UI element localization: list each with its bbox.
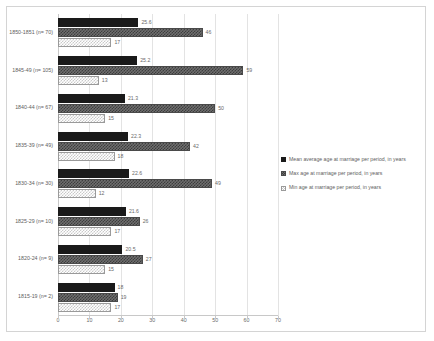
bar-max[interactable] bbox=[58, 142, 190, 151]
bar-mean[interactable] bbox=[58, 245, 122, 254]
bar-value-label: 21.6 bbox=[129, 209, 139, 214]
bar-value-label: 15 bbox=[108, 267, 114, 272]
bar-group: 21.35015 bbox=[58, 94, 278, 123]
x-tick-mark bbox=[152, 316, 153, 319]
x-tick-mark bbox=[215, 316, 216, 319]
gridline bbox=[278, 14, 279, 316]
bar-value-label: 18 bbox=[118, 285, 124, 290]
bar-row[interactable]: 46 bbox=[58, 28, 211, 37]
bar-value-label: 26 bbox=[143, 219, 149, 224]
bar-mean[interactable] bbox=[58, 94, 125, 103]
bar-row[interactable]: 22.3 bbox=[58, 132, 141, 141]
bar-mean[interactable] bbox=[58, 207, 126, 216]
bar-row[interactable]: 25.2 bbox=[58, 56, 150, 65]
bar-min[interactable] bbox=[58, 303, 111, 312]
bar-row[interactable]: 50 bbox=[58, 104, 224, 113]
bar-min[interactable] bbox=[58, 76, 99, 85]
x-axis-tick-labels: 010203040506070 bbox=[58, 318, 278, 328]
bar-value-label: 42 bbox=[193, 144, 199, 149]
bar-max[interactable] bbox=[58, 28, 203, 37]
bar-row[interactable]: 18 bbox=[58, 152, 123, 161]
x-tick-mark bbox=[247, 316, 248, 319]
bar-row[interactable]: 42 bbox=[58, 142, 199, 151]
bar-min[interactable] bbox=[58, 38, 111, 47]
category-label: 1850-1851 (n= 70) bbox=[9, 30, 53, 35]
bar-row[interactable]: 15 bbox=[58, 114, 114, 123]
bar-max[interactable] bbox=[58, 217, 140, 226]
legend-label: Max age at marriage per period, in years bbox=[289, 171, 382, 176]
bar-value-label: 50 bbox=[218, 106, 224, 111]
bar-value-label: 20.5 bbox=[125, 247, 135, 252]
bar-max[interactable] bbox=[58, 255, 143, 264]
x-tick-mark bbox=[278, 316, 279, 319]
bar-min[interactable] bbox=[58, 114, 105, 123]
bar-mean[interactable] bbox=[58, 169, 129, 178]
bar-min[interactable] bbox=[58, 265, 105, 274]
legend-swatch-max bbox=[281, 171, 286, 176]
category-label: 1840-44 (n= 67) bbox=[15, 105, 53, 110]
bar-row[interactable]: 21.3 bbox=[58, 94, 138, 103]
legend-item[interactable]: Mean average age at marriage per period,… bbox=[281, 157, 429, 162]
category-label: 1845-49 (n= 105) bbox=[12, 68, 53, 73]
category-label: 1815-19 (n= 2) bbox=[18, 294, 53, 299]
bar-min[interactable] bbox=[58, 227, 111, 236]
bar-row[interactable]: 21.6 bbox=[58, 207, 139, 216]
bar-min[interactable] bbox=[58, 152, 115, 161]
bar-max[interactable] bbox=[58, 66, 243, 75]
bar-row[interactable]: 26 bbox=[58, 217, 148, 226]
legend-item[interactable]: Max age at marriage per period, in years bbox=[281, 171, 429, 176]
bar-row[interactable]: 19 bbox=[58, 293, 126, 302]
category-label: 1830-34 (n= 30) bbox=[15, 181, 53, 186]
bar-group: 22.34218 bbox=[58, 132, 278, 161]
bar-mean[interactable] bbox=[58, 132, 128, 141]
bar-value-label: 27 bbox=[146, 257, 152, 262]
bar-value-label: 18 bbox=[118, 154, 124, 159]
legend-item[interactable]: Min age at marriage per period, in years bbox=[281, 185, 429, 190]
bar-row[interactable]: 22.6 bbox=[58, 169, 142, 178]
bar-row[interactable]: 15 bbox=[58, 265, 114, 274]
bar-row[interactable]: 18 bbox=[58, 283, 123, 292]
bar-value-label: 49 bbox=[215, 181, 221, 186]
bar-mean[interactable] bbox=[58, 283, 115, 292]
bar-row[interactable]: 17 bbox=[58, 227, 120, 236]
bar-value-label: 46 bbox=[206, 30, 212, 35]
legend-label: Min age at marriage per period, in years bbox=[289, 185, 381, 190]
bar-row[interactable]: 13 bbox=[58, 76, 108, 85]
bar-value-label: 59 bbox=[246, 68, 252, 73]
bar-row[interactable]: 17 bbox=[58, 38, 120, 47]
x-tick-mark bbox=[58, 316, 59, 319]
bar-max[interactable] bbox=[58, 104, 215, 113]
bar-group: 22.64912 bbox=[58, 169, 278, 198]
x-tick-mark bbox=[184, 316, 185, 319]
bar-row[interactable]: 17 bbox=[58, 303, 120, 312]
bar-row[interactable]: 27 bbox=[58, 255, 152, 264]
bar-group: 25.25913 bbox=[58, 56, 278, 85]
bar-row[interactable]: 12 bbox=[58, 189, 104, 198]
bar-value-label: 15 bbox=[108, 116, 114, 121]
legend-swatch-min bbox=[281, 186, 286, 191]
bar-mean[interactable] bbox=[58, 56, 137, 65]
bar-value-label: 17 bbox=[114, 229, 120, 234]
chart-container: 25.6461725.2591321.3501522.3421822.64912… bbox=[0, 0, 434, 341]
bar-value-label: 25.6 bbox=[141, 20, 151, 25]
category-label: 1835-39 (n= 49) bbox=[15, 143, 53, 148]
bar-value-label: 21.3 bbox=[128, 96, 138, 101]
bar-row[interactable]: 25.6 bbox=[58, 18, 152, 27]
x-tick-mark bbox=[89, 316, 90, 319]
bar-max[interactable] bbox=[58, 179, 212, 188]
x-tick-mark bbox=[121, 316, 122, 319]
bar-min[interactable] bbox=[58, 189, 96, 198]
bar-mean[interactable] bbox=[58, 18, 138, 27]
bar-row[interactable]: 49 bbox=[58, 179, 221, 188]
bar-row[interactable]: 20.5 bbox=[58, 245, 136, 254]
bar-group: 21.62617 bbox=[58, 207, 278, 236]
bar-value-label: 22.6 bbox=[132, 171, 142, 176]
legend-swatch-mean bbox=[281, 157, 286, 162]
bar-groups: 25.6461725.2591321.3501522.3421822.64912… bbox=[58, 14, 278, 316]
bar-max[interactable] bbox=[58, 293, 118, 302]
x-axis-line bbox=[58, 315, 278, 316]
bar-row[interactable]: 59 bbox=[58, 66, 252, 75]
bar-value-label: 12 bbox=[99, 191, 105, 196]
bar-group: 25.64617 bbox=[58, 18, 278, 47]
bar-value-label: 13 bbox=[102, 78, 108, 83]
